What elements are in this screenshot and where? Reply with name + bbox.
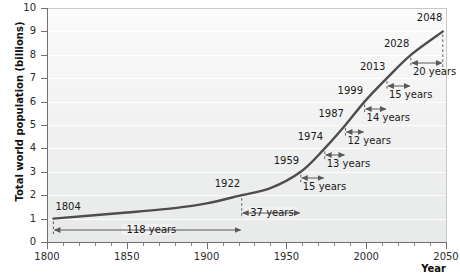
milestone-year-label: 2013 [360, 61, 385, 72]
population-growth-chart: 012345678910 180018501900195020002050 To… [0, 0, 460, 280]
interval-label: 13 years [327, 158, 370, 169]
interval-label: 118 years [124, 224, 180, 235]
interval-label: 12 years [347, 135, 390, 146]
milestone-year-label: 1974 [298, 131, 323, 142]
interval-label: 20 years [413, 66, 456, 77]
interval-label: 14 years [367, 112, 410, 123]
milestone-year-label: 1987 [318, 108, 343, 119]
milestone-year-label: 1804 [55, 201, 80, 212]
interval-label: 37 years [247, 207, 296, 218]
milestone-year-label: 1959 [274, 155, 299, 166]
interval-label: 15 years [389, 89, 432, 100]
interval-label: 15 years [303, 181, 346, 192]
milestone-year-label: 2028 [384, 38, 409, 49]
milestone-year-label: 1922 [215, 178, 240, 189]
milestone-year-label: 1999 [338, 85, 363, 96]
population-curve [53, 31, 442, 218]
milestone-year-label: 2048 [417, 12, 442, 23]
